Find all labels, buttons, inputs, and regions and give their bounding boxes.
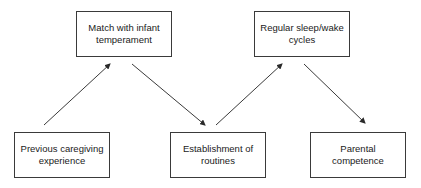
node-label: Regular sleep/wake cycles — [260, 22, 343, 46]
node-regular-sleep-wake-cycles: Regular sleep/wake cycles — [254, 11, 350, 57]
node-establishment-of-routines: Establishment of routines — [170, 132, 266, 178]
arrow-previous-to-match — [44, 64, 110, 125]
arrow-match-to-routines — [132, 64, 205, 125]
node-previous-caregiving-experience: Previous caregiving experience — [14, 132, 110, 178]
node-label: Establishment of routines — [183, 143, 253, 167]
node-label: Parental competence — [332, 143, 384, 167]
node-match-with-infant-temperament: Match with infant temperament — [76, 11, 172, 57]
flow-diagram: Match with infant temperament Regular sl… — [0, 0, 421, 188]
node-label: Match with infant temperament — [88, 22, 159, 46]
arrow-routines-to-sleep — [216, 64, 282, 125]
arrow-sleep-to-competence — [304, 64, 365, 123]
node-parental-competence: Parental competence — [310, 132, 406, 178]
node-label: Previous caregiving experience — [21, 143, 104, 167]
